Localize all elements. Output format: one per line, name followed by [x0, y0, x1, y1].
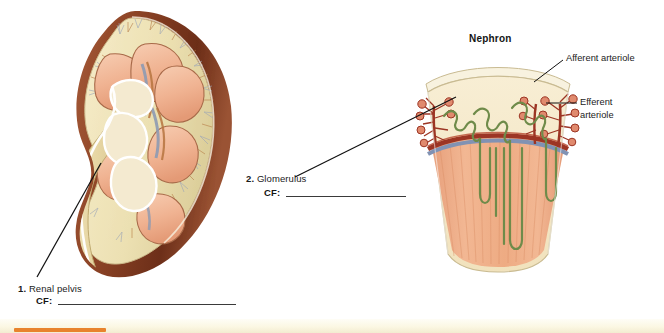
callout-1-cf-label: CF: — [36, 296, 52, 306]
callout-2-cf-blank[interactable] — [286, 196, 406, 197]
efferent-arteriole-label-line2: arteriole — [580, 109, 614, 122]
afferent-arteriole-label: Afferent arteriole — [566, 52, 635, 65]
nephron-figure-heading: Nephron — [469, 33, 512, 44]
callout-1-number: 1. — [18, 283, 26, 294]
footer-accent-bar — [14, 328, 106, 332]
nephron-wedge-illustration — [408, 44, 588, 276]
worksheet-page: Nephron Afferent arteriole Efferent arte… — [0, 0, 664, 333]
kidney-coronal-section-illustration — [14, 8, 254, 286]
callout-1-cf-blank[interactable] — [58, 304, 236, 305]
callout-1-cf-row[interactable]: CF: — [36, 296, 236, 306]
callout-1-term: Renal pelvis — [29, 283, 82, 294]
efferent-arteriole-label-line1: Efferent — [580, 96, 614, 109]
callout-2-term: Glomerulus — [257, 173, 307, 184]
callout-2-cf-row[interactable]: CF: — [264, 188, 406, 198]
callout-1-title: 1. Renal pelvis — [18, 283, 82, 294]
callout-2-number: 2. — [246, 173, 254, 184]
callout-2-cf-label: CF: — [264, 188, 280, 198]
callout-2-title: 2. Glomerulus — [246, 173, 306, 184]
efferent-arteriole-label: Efferent arteriole — [580, 96, 614, 121]
footer-band — [0, 319, 664, 333]
